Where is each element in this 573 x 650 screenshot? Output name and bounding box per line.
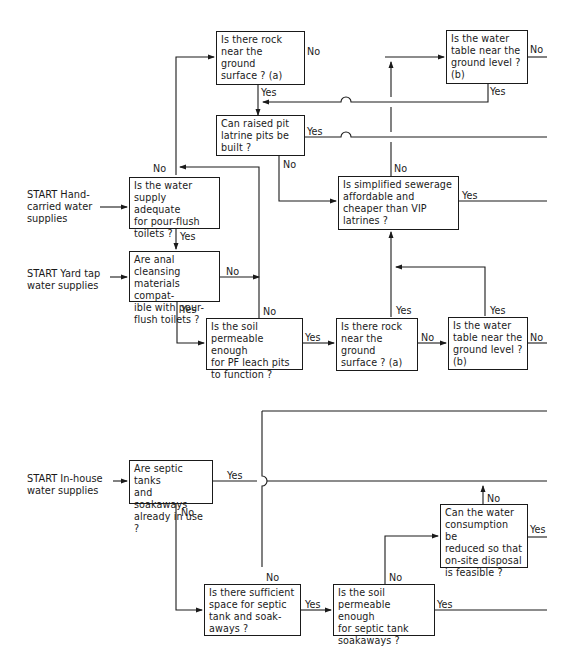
label-septic-in-use-no: No [181, 507, 194, 518]
label-septic-in-use-yes: Yes [227, 470, 243, 481]
label-simplified-sewerage-yes: Yes [462, 190, 478, 201]
decision-water-supply: Is the water supply adequate for pour-fl… [129, 177, 220, 229]
label-soil-pf-no: No [263, 306, 276, 317]
decision-water-consumption: Can the water consumption be reduced so … [440, 504, 528, 568]
label-anal-cleansing-yes: Yes [181, 304, 197, 315]
decision-water-table-mid: Is the water table near the ground level… [448, 317, 528, 370]
start-yard-tap-label: START Yard tap water supplies [27, 268, 100, 292]
label-raised-pit-yes: Yes [307, 126, 323, 137]
label-soil-pf-yes: Yes [305, 332, 321, 343]
start-in-house-label: START In-house water supplies [27, 473, 103, 497]
label-water-supply-no: No [153, 163, 166, 174]
label-rock-mid-no: No [421, 332, 434, 343]
decision-anal-cleansing: Are anal cleansing materials compat- ibl… [129, 251, 220, 302]
label-water-table-mid-no: No [530, 332, 543, 343]
label-rock-top-yes: Yes [261, 87, 277, 98]
decision-rock-mid: Is there rock near the ground surface ? … [336, 318, 418, 371]
label-sufficient-space-no: No [266, 572, 279, 583]
decision-soil-pf: Is the soil permeable enough for PF leac… [206, 318, 303, 370]
label-water-consumption-no: No [487, 493, 500, 504]
decision-water-table-top: Is the water table near the ground level… [446, 30, 528, 84]
decision-rock-top: Is there rock near the ground surface ? … [216, 31, 305, 85]
label-raised-pit-no: No [283, 159, 296, 170]
start-hand-carried-label: START Hand- carried water supplies [27, 189, 92, 225]
decision-raised-pit: Can raised pit latrine pits be built ? [216, 115, 305, 156]
label-sufficient-space-yes: Yes [305, 599, 321, 610]
label-simplified-sewerage-no: No [394, 163, 407, 174]
decision-sufficient-space: Is there sufficient space for septic tan… [204, 584, 301, 636]
label-water-table-top-yes: Yes [490, 86, 506, 97]
label-water-table-mid-yes: Yes [490, 305, 506, 316]
label-soil-septic-yes: Yes [437, 599, 453, 610]
label-anal-cleansing-no: No [226, 266, 239, 277]
flowchart-canvas: START Hand- carried water supplies START… [0, 0, 573, 650]
decision-septic-in-use: Are septic tanks and soakaways already i… [129, 460, 213, 504]
decision-soil-septic: Is the soil permeable enough for septic … [333, 584, 435, 636]
label-soil-septic-no: No [389, 572, 402, 583]
label-water-table-top-no: No [530, 44, 543, 55]
label-rock-mid-yes: Yes [396, 305, 412, 316]
label-water-supply-yes: Yes [180, 231, 196, 242]
label-water-consumption-yes: Yes [530, 524, 546, 535]
label-rock-top-no: No [307, 46, 320, 57]
decision-simplified-sewerage: Is simplified sewerage affordable and ch… [338, 176, 459, 230]
